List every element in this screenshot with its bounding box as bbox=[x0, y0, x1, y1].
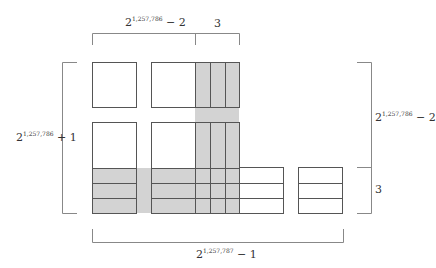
bracket-right bbox=[357, 63, 372, 214]
shaded-horizontal-band bbox=[92, 168, 239, 213]
box-bottom-right-2 bbox=[299, 168, 343, 214]
shaded-regions bbox=[92, 62, 239, 213]
label-top-width: 21,257,786 − 2 bbox=[125, 16, 186, 28]
label-right-three: 3 bbox=[375, 184, 382, 195]
box-top-left bbox=[93, 63, 137, 108]
label-bottom-width: 21,257,787 − 1 bbox=[196, 248, 257, 260]
label-right-height: 21,257,786 − 2 bbox=[375, 111, 436, 123]
box-bottom-right-1 bbox=[240, 168, 284, 214]
bracket-bottom bbox=[93, 229, 344, 243]
bracket-top bbox=[93, 34, 240, 46]
label-top-three: 3 bbox=[214, 18, 221, 29]
label-left-height: 21,257,786 + 1 bbox=[16, 131, 77, 143]
